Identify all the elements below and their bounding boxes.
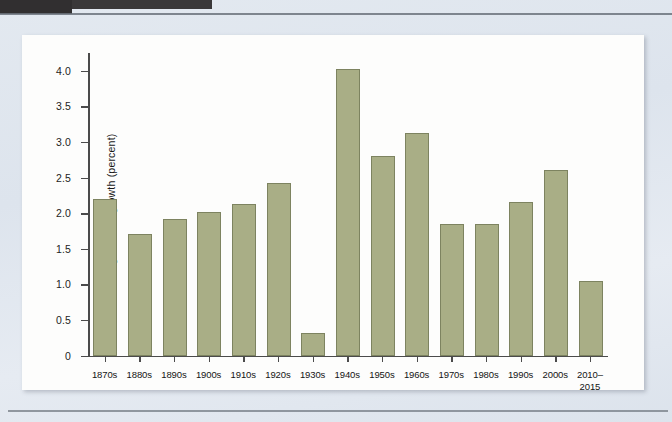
bar — [405, 133, 429, 355]
page-rule-bottom — [8, 410, 668, 412]
x-axis-tick-label: 1930s — [300, 369, 325, 381]
x-axis-tick-label: 1970s — [439, 369, 464, 381]
x-axis-tick-label: 1950s — [369, 369, 394, 381]
bar — [475, 224, 499, 356]
y-axis-tick: 1.5 — [81, 249, 88, 251]
x-axis-tick-label: 1870s — [92, 369, 117, 381]
x-axis-tick: 1890s — [174, 357, 176, 362]
x-axis-tick-label: 1940s — [335, 369, 360, 381]
x-axis-tick-label: 2010– 2015 — [577, 369, 603, 393]
bar — [544, 170, 568, 355]
x-axis-tick-label: 1960s — [404, 369, 429, 381]
x-axis-tick: 1920s — [278, 357, 280, 362]
y-axis-tick-label: 0.5 — [56, 314, 71, 326]
plot-area: 00.51.01.52.02.53.03.54.0 1870s1880s1890… — [88, 53, 608, 357]
y-axis-tick: 3.5 — [81, 106, 88, 108]
y-axis-tick-label: 1.5 — [56, 243, 71, 255]
y-axis-tick: 2.0 — [81, 213, 88, 215]
bar — [93, 199, 117, 356]
bar — [371, 156, 395, 355]
x-axis-tick: 1970s — [451, 357, 453, 362]
x-axis-tick: 2000s — [555, 357, 557, 362]
y-axis-tick: 2.5 — [81, 178, 88, 180]
bar — [163, 219, 187, 356]
bar — [301, 333, 325, 356]
x-axis-tick-label: 1920s — [265, 369, 290, 381]
page-rule-top — [0, 13, 672, 15]
y-axis-tick-label: 1.0 — [56, 278, 71, 290]
y-axis-tick-label: 2.0 — [56, 207, 71, 219]
x-axis-tick: 1990s — [521, 357, 523, 362]
y-axis-tick: 0 — [81, 356, 88, 358]
y-axis-tick: 4.0 — [81, 71, 88, 73]
bar — [509, 202, 533, 355]
x-axis-tick-label: 1880s — [127, 369, 152, 381]
bar — [128, 234, 152, 356]
x-axis-tick-label: 1900s — [196, 369, 221, 381]
x-axis-tick-label: 1890s — [161, 369, 186, 381]
x-axis-tick: 1960s — [417, 357, 419, 362]
y-axis-tick: 1.0 — [81, 284, 88, 286]
scan-artifact-corner — [0, 0, 72, 14]
x-axis-tick: 1910s — [243, 357, 245, 362]
y-axis-tick-label: 0 — [65, 350, 71, 362]
x-axis-tick: 1880s — [139, 357, 141, 362]
bar — [579, 281, 603, 356]
y-axis-tick-label: 3.0 — [56, 136, 71, 148]
x-axis-tick: 1900s — [209, 357, 211, 362]
x-axis-tick: 1940s — [347, 357, 349, 362]
x-axis-tick: 1980s — [486, 357, 488, 362]
chart-figure: Average annual growth (percent) 00.51.01… — [22, 35, 644, 390]
y-axis-tick-label: 3.5 — [56, 100, 71, 112]
x-axis-tick: 1930s — [313, 357, 315, 362]
y-axis-line — [88, 53, 90, 357]
x-axis-tick-label: 1990s — [508, 369, 533, 381]
x-axis-tick-label: 1980s — [473, 369, 498, 381]
x-axis-tick-label: 2000s — [543, 369, 568, 381]
y-axis-tick-label: 2.5 — [56, 172, 71, 184]
bar — [267, 183, 291, 355]
y-axis-tick-label: 4.0 — [56, 65, 71, 77]
scan-artifact-corner-secondary — [72, 0, 212, 9]
y-axis-tick: 3.0 — [81, 142, 88, 144]
bar — [440, 224, 464, 356]
bar — [197, 212, 221, 356]
x-axis-tick: 2010– 2015 — [590, 357, 592, 362]
bar — [336, 69, 360, 356]
x-axis-tick-label: 1910s — [231, 369, 256, 381]
x-axis-tick: 1870s — [105, 357, 107, 362]
x-axis-tick: 1950s — [382, 357, 384, 362]
y-axis-tick: 0.5 — [81, 320, 88, 322]
scanned-page: Average annual growth (percent) 00.51.01… — [0, 0, 672, 422]
bar — [232, 204, 256, 356]
